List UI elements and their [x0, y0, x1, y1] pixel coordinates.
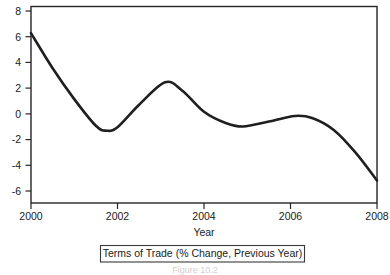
- x-axis-title: Year: [193, 226, 215, 238]
- y-tick-label: -2: [12, 133, 21, 145]
- figure-container: 8 6 4 2 0 -2 -4 -6 2000 2002 2004 2006 2…: [0, 0, 390, 275]
- x-tick-label: 2004: [192, 210, 216, 222]
- legend-label: Terms of Trade (% Change, Previous Year): [103, 247, 303, 259]
- figure-caption: Figure 10.2: [172, 265, 218, 275]
- y-tick-label: 4: [15, 56, 21, 68]
- y-axis-ticks: [26, 11, 32, 191]
- x-axis-tick-labels: 2000 2002 2004 2006 2008: [19, 210, 389, 222]
- terms-of-trade-line-chart: 8 6 4 2 0 -2 -4 -6 2000 2002 2004 2006 2…: [0, 0, 390, 275]
- y-tick-label: -6: [12, 185, 21, 197]
- y-tick-label: 6: [15, 31, 21, 43]
- x-tick-label: 2002: [106, 210, 130, 222]
- y-tick-label: 0: [15, 108, 21, 120]
- x-tick-label: 2000: [19, 210, 43, 222]
- x-axis-ticks: [31, 203, 377, 209]
- y-tick-label: 2: [15, 82, 21, 94]
- x-tick-label: 2008: [365, 210, 389, 222]
- y-axis-tick-labels: 8 6 4 2 0 -2 -4 -6: [12, 5, 22, 197]
- legend: Terms of Trade (% Change, Previous Year): [101, 246, 305, 263]
- series-line-terms-of-trade: [31, 33, 377, 180]
- y-tick-label: 8: [15, 5, 21, 17]
- plot-frame: [31, 7, 377, 204]
- y-tick-label: -4: [12, 159, 21, 171]
- x-tick-label: 2006: [279, 210, 303, 222]
